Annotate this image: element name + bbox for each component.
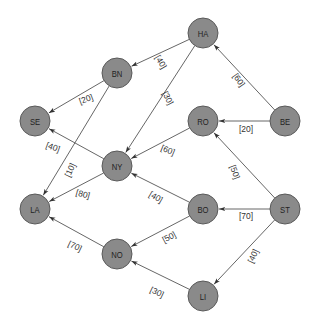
node-la: LA [20, 194, 50, 224]
node-label: NO [111, 249, 123, 260]
edge-bo-to-no: [50] [131, 216, 190, 247]
edge-bn-to-la: [10] [43, 86, 109, 195]
node-be: BE [270, 106, 300, 136]
edge-st-to-bo: [70] [219, 209, 270, 221]
edge-line [214, 220, 275, 284]
edge-weight-label: [40] [245, 247, 260, 264]
node-st: ST [270, 194, 300, 224]
edge-line [131, 128, 190, 159]
node-bo: BO [188, 194, 218, 224]
graph-diagram: [40][30][60][20][20][10][40][60][80][40]… [0, 0, 318, 326]
edge-weight-label: [50] [160, 229, 177, 244]
edge-be-to-ro: [20] [219, 121, 270, 134]
edge-ny-to-la: [80] [49, 173, 104, 202]
edge-weight-label: [40] [45, 140, 62, 154]
node-label: LA [30, 204, 40, 215]
node-se: SE [20, 106, 50, 136]
edge-be-to-ha: [60] [214, 45, 275, 110]
node-label: BO [198, 204, 210, 215]
edge-weight-label: [30] [160, 89, 175, 106]
edge-li-to-no: [30] [131, 261, 189, 300]
node-label: HA [198, 28, 209, 39]
edge-weight-label: [70] [66, 238, 83, 253]
edge-weight-label: [10] [62, 161, 77, 178]
node-label: BE [280, 116, 291, 127]
edge-line [131, 216, 190, 247]
node-label: BN [112, 68, 123, 79]
node-li: LI [188, 281, 218, 311]
node-ha: HA [188, 18, 218, 48]
edge-st-to-ro: [50] [214, 133, 275, 198]
node-label: SE [30, 116, 41, 127]
edge-line [214, 133, 275, 198]
node-ny: NY [102, 151, 132, 181]
edge-st-to-li: [40] [214, 220, 275, 284]
edges-layer: [40][30][60][20][20][10][40][60][80][40]… [43, 39, 275, 299]
node-label: LI [200, 291, 206, 302]
edge-no-to-la: [70] [49, 217, 104, 254]
edge-ro-to-ny: [60] [131, 128, 190, 159]
edge-bo-to-ny: [40] [131, 173, 189, 205]
edge-weight-label: [60] [160, 143, 177, 158]
edge-weight-label: [70] [239, 211, 253, 221]
edge-weight-label: [40] [153, 53, 169, 70]
edge-weight-label: [50] [228, 164, 242, 181]
edge-line [43, 86, 109, 195]
node-bn: BN [102, 58, 132, 88]
edge-line [131, 261, 189, 289]
edge-weight-label: [20] [239, 124, 253, 134]
node-no: NO [102, 239, 132, 269]
edge-weight-label: [60] [231, 71, 247, 88]
edge-weight-label: [80] [75, 187, 91, 200]
edge-weight-label: [40] [147, 189, 164, 205]
edge-ha-to-bn: [40] [132, 39, 190, 70]
node-label: RO [197, 116, 209, 127]
node-label: ST [280, 204, 290, 215]
node-label: NY [112, 161, 123, 172]
node-ro: RO [188, 106, 218, 136]
edge-weight-label: [30] [148, 284, 165, 299]
edge-weight-label: [20] [78, 92, 95, 106]
